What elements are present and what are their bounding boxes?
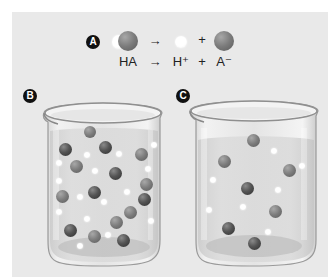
h-ion-icon: [206, 207, 212, 213]
a-ion-icon: [56, 190, 69, 203]
h-ion-icon: [148, 218, 154, 224]
h-ion-icon: [56, 209, 62, 215]
ha-molecule-icon: [117, 234, 130, 247]
a-ion-icon: [269, 205, 282, 218]
ha-molecule-icon: [59, 143, 72, 156]
h-ion-icon: [271, 148, 277, 154]
ha-molecule-icon: [88, 186, 101, 199]
h-ion-icon: [77, 194, 83, 200]
ha-molecule-icon: [248, 237, 261, 250]
h-ion-icon: [56, 160, 62, 166]
ha-molecule-icon: [241, 182, 254, 195]
h-ion-icon: [116, 151, 122, 157]
ha-molecule-icon: [138, 193, 151, 206]
a-ion-icon: [140, 178, 153, 191]
h-ion-icon: [84, 216, 90, 222]
label-c-badge: C: [176, 89, 190, 103]
ha-molecule-icon: [64, 224, 77, 237]
h-ion-icon: [84, 152, 90, 158]
ha-molecule-icon: [222, 222, 235, 235]
a-ion-icon: [88, 230, 101, 243]
h-ion-icon: [77, 243, 83, 249]
h-ion-icon: [265, 229, 271, 235]
h-ion-icon: [105, 232, 111, 238]
h-ion-icon: [210, 177, 216, 183]
beakers-illustration: [0, 0, 333, 277]
a-ion-icon: [247, 134, 260, 147]
a-ion-icon: [110, 216, 123, 229]
h-ion-icon: [56, 178, 62, 184]
h-ion-icon: [101, 199, 107, 205]
label-b-badge: B: [23, 89, 37, 103]
h-ion-icon: [151, 142, 157, 148]
a-ion-icon: [283, 164, 296, 177]
a-ion-icon: [84, 126, 96, 138]
a-ion-icon: [135, 148, 148, 161]
a-ion-icon: [218, 155, 231, 168]
ha-molecule-icon: [99, 141, 112, 154]
h-ion-icon: [240, 204, 246, 210]
ha-molecule-icon: [109, 167, 122, 180]
h-ion-icon: [299, 163, 305, 169]
a-ion-icon: [124, 206, 137, 219]
a-ion-icon: [70, 160, 83, 173]
h-ion-icon: [275, 187, 281, 193]
h-ion-icon: [124, 189, 130, 195]
h-ion-icon: [145, 166, 151, 172]
h-ion-icon: [92, 168, 98, 174]
